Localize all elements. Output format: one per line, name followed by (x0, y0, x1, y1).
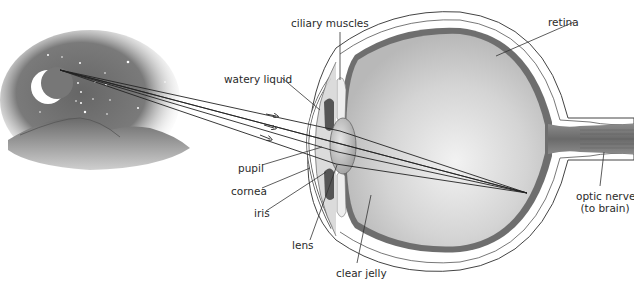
label-lens: lens (292, 239, 314, 251)
ciliary-muscle-lower (337, 172, 346, 217)
lens (330, 118, 356, 174)
clear-jelly (346, 34, 545, 247)
label-optic-nerve-line1: optic nerve (576, 190, 634, 202)
label-optic-nerve: optic nerve (to brain) (576, 190, 634, 214)
label-cornea: cornea (231, 185, 267, 197)
label-iris: iris (254, 207, 270, 219)
label-watery-liquid: watery liquid (224, 73, 292, 85)
iris-upper (324, 99, 334, 132)
eye-diagram (0, 0, 634, 298)
eyeball (308, 12, 634, 272)
label-clear-jelly: clear jelly (336, 267, 387, 279)
label-optic-nerve-line2: (to brain) (576, 202, 634, 214)
ciliary-muscle-upper (337, 78, 346, 123)
label-ciliary-muscles: ciliary muscles (291, 17, 369, 29)
iris-lower (324, 169, 334, 201)
label-retina: retina (548, 16, 579, 28)
label-pupil: pupil (238, 162, 264, 174)
